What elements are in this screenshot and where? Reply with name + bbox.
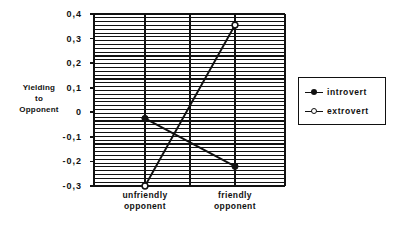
legend-item-introvert: introvert	[305, 85, 367, 99]
x-tick-label-line-1: friendly	[180, 190, 290, 201]
chart-figure: Yielding to Opponent 0,4 0,3 0,2 0,1 0 -…	[0, 0, 398, 228]
x-tick-label-friendly: friendly opponent	[180, 190, 290, 212]
legend-label: extrovert	[327, 106, 369, 116]
filled-circle-marker-icon	[305, 87, 323, 97]
legend-label: introvert	[327, 87, 367, 97]
open-circle-marker-icon	[305, 106, 323, 116]
x-tick-label-line-2: opponent	[180, 201, 290, 212]
legend: introvert extrovert	[298, 77, 386, 125]
legend-item-extrovert: extrovert	[305, 104, 369, 118]
